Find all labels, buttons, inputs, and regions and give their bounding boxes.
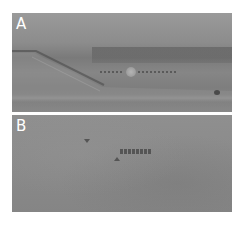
dark-layer-band — [92, 47, 232, 63]
figure-panel-b: B — [12, 115, 232, 212]
dotted-marker-line-right — [138, 71, 178, 73]
dotted-marker-line — [120, 149, 151, 154]
bright-spot — [126, 67, 136, 77]
panel-label-a: A — [16, 17, 26, 32]
dark-spot — [214, 90, 220, 95]
arrowhead-up-icon — [114, 157, 120, 161]
figure-panel-a: A — [12, 13, 232, 112]
arrowhead-down-icon — [84, 139, 90, 143]
dotted-marker-line-left — [100, 71, 124, 73]
panel-label-b: B — [16, 119, 26, 134]
